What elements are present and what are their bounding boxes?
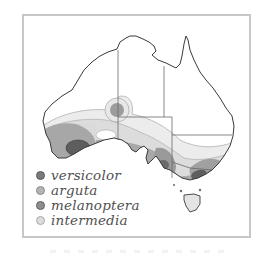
range-versicolor-west xyxy=(66,140,90,156)
faded-caption xyxy=(50,250,230,253)
legend-label: arguta xyxy=(51,183,98,198)
swatch-arguta-icon xyxy=(36,186,45,195)
legend-item-intermedia: intermedia xyxy=(36,213,140,228)
swatch-intermedia-icon xyxy=(36,216,45,225)
legend-item-arguta: arguta xyxy=(36,183,140,198)
legend: versicolor arguta melanoptera intermedia xyxy=(36,168,140,228)
legend-label: melanoptera xyxy=(51,198,140,213)
range-central-core xyxy=(110,103,124,117)
legend-item-melanoptera: melanoptera xyxy=(36,198,140,213)
legend-label: intermedia xyxy=(51,213,128,228)
tasmania xyxy=(184,194,200,212)
swatch-versicolor-icon xyxy=(36,171,45,180)
legend-label: versicolor xyxy=(51,168,121,183)
legend-item-versicolor: versicolor xyxy=(36,168,140,183)
swatch-melanoptera-icon xyxy=(36,201,45,210)
range-versicolor-sa xyxy=(157,160,169,170)
